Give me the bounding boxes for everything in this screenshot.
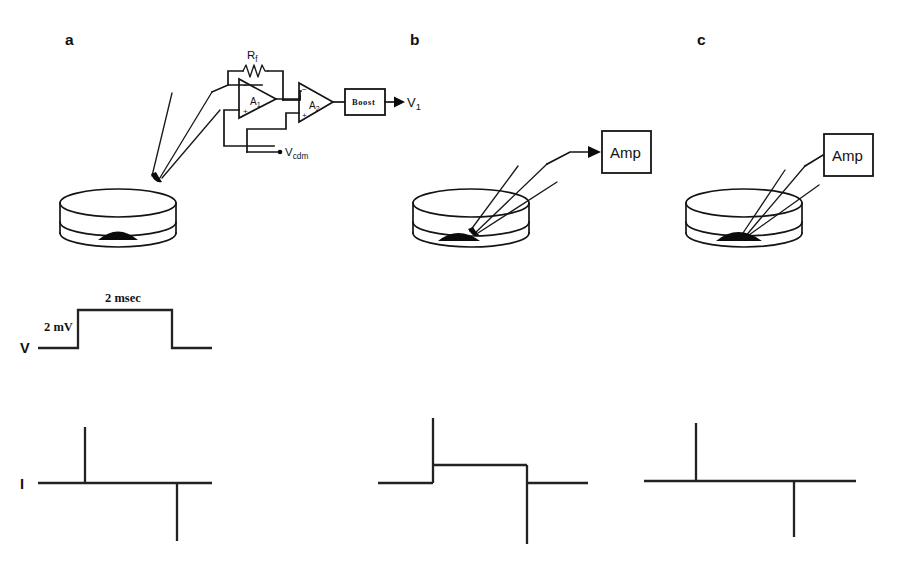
petri-dish-a [60, 189, 176, 247]
amp-label-b: Amp [610, 144, 641, 161]
current-trace-a [38, 427, 212, 541]
amplitude-label: 2 mV [44, 320, 73, 334]
opamp-a2: − + A2 [299, 83, 333, 122]
a1-label: A1 [250, 96, 261, 109]
vcdm-label: Vcdm [285, 146, 308, 161]
voltage-axis-label: V [20, 340, 30, 356]
amp-lead-b [547, 152, 590, 164]
figure-container: a b c Rf − [0, 0, 900, 561]
pipette-icon-a [151, 92, 220, 182]
a2-minus-sign: − [302, 85, 307, 94]
a1-minus-sign: − [243, 81, 248, 90]
panel-letter-b: b [410, 31, 419, 48]
pipette-tip-b [468, 227, 480, 236]
vcdm-terminal-dot [278, 150, 283, 155]
duration-label: 2 msec [105, 291, 141, 305]
panel-b-schematic: Amp [413, 131, 651, 247]
current-trace-b [378, 418, 588, 544]
amp-arrowhead-b [588, 146, 601, 158]
cell-a [98, 232, 138, 241]
a2-label: A2 [309, 100, 320, 113]
a2-plus-sign: + [302, 111, 307, 120]
amp-label-c: Amp [832, 147, 863, 164]
current-axis-label: I [20, 476, 24, 492]
schematic-figure: a b c Rf − [0, 0, 900, 561]
panel-c-schematic: Amp [686, 134, 873, 247]
panel-letter-c: c [697, 31, 706, 48]
a1-plus-sign: + [243, 107, 248, 116]
panel-letter-a: a [65, 31, 74, 48]
rf-label: Rf [247, 49, 258, 64]
v1-output-label: V1 [407, 95, 421, 112]
panel-a-circuit: Rf − + A1 − + A2 [60, 49, 421, 247]
petri-dish-c [686, 189, 802, 247]
boost-label: Boost [352, 97, 375, 107]
voltage-trace-row: V 2 mV 2 msec [20, 291, 212, 356]
output-arrowhead [394, 97, 405, 108]
current-trace-c [644, 423, 856, 537]
feedback-resistor-rf [243, 65, 268, 77]
current-trace-row: I [20, 418, 856, 544]
